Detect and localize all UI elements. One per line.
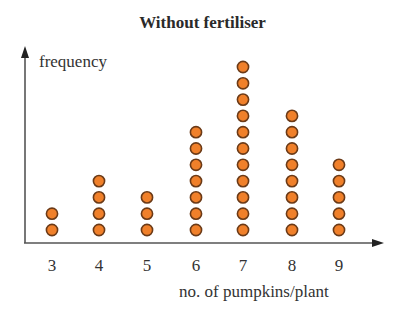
y-axis [21, 46, 29, 243]
dot [333, 192, 344, 203]
dot [237, 94, 248, 105]
dot [190, 224, 201, 235]
dot [237, 61, 248, 72]
dot [237, 127, 248, 138]
dot-column-6 [190, 127, 201, 236]
dot [237, 143, 248, 154]
dot [237, 208, 248, 219]
dot [190, 143, 201, 154]
dot [141, 208, 152, 219]
dot [46, 224, 57, 235]
dot [190, 159, 201, 170]
dot [93, 176, 104, 187]
dot [93, 224, 104, 235]
dot [190, 127, 201, 138]
dot [46, 208, 57, 219]
dot-column-5 [141, 192, 152, 236]
x-axis-label: no. of pumpkins/plant [179, 282, 329, 302]
dot [141, 192, 152, 203]
x-tick-label: 8 [282, 256, 302, 276]
dot [333, 208, 344, 219]
dot-column-4 [93, 176, 104, 236]
dot [286, 224, 297, 235]
dot [237, 192, 248, 203]
x-tick-label: 7 [233, 256, 253, 276]
dot [237, 110, 248, 121]
dot [286, 143, 297, 154]
dot [286, 176, 297, 187]
dot [286, 127, 297, 138]
dot [93, 208, 104, 219]
dot-column-3 [46, 208, 57, 236]
dot-column-9 [333, 159, 344, 235]
dot [190, 176, 201, 187]
x-axis-arrow-icon [372, 239, 384, 247]
x-tick-label: 4 [89, 256, 109, 276]
dot [286, 208, 297, 219]
dot-column-7 [237, 61, 248, 235]
dot [333, 159, 344, 170]
x-axis [24, 239, 384, 247]
dot [141, 224, 152, 235]
x-tick-label: 3 [42, 256, 62, 276]
x-tick-label: 6 [186, 256, 206, 276]
x-tick-label: 5 [137, 256, 157, 276]
dot [286, 192, 297, 203]
dot [286, 110, 297, 121]
dot [190, 208, 201, 219]
y-axis-arrow-icon [21, 46, 29, 58]
dot [237, 224, 248, 235]
dot [237, 176, 248, 187]
dot-column-8 [286, 110, 297, 235]
dot [286, 159, 297, 170]
x-tick-label: 9 [329, 256, 349, 276]
dot [237, 78, 248, 89]
dot [333, 224, 344, 235]
dot [333, 176, 344, 187]
dot-columns [46, 61, 344, 235]
dot [190, 192, 201, 203]
dot [237, 159, 248, 170]
dot [93, 192, 104, 203]
